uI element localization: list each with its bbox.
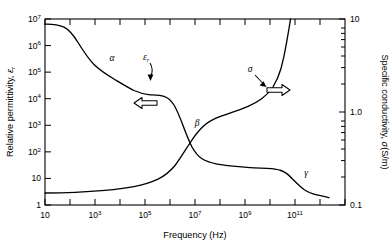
xtick-exp-1: 3: [98, 209, 102, 216]
svg-text:105: 105: [138, 209, 152, 220]
xtick-mantissa-5: 10: [287, 210, 297, 220]
svg-text:107: 107: [28, 13, 42, 24]
svg-text:104: 104: [28, 92, 42, 103]
y2tick-label-1: 1.0: [350, 107, 362, 117]
xtick-mantissa-0: 10: [40, 210, 50, 220]
xtick-exp-5: 11: [297, 209, 304, 216]
ytick-exp-7: 7: [38, 13, 42, 20]
ytick-exp-2: 2: [38, 146, 42, 153]
ytick-mantissa-0: 1: [36, 200, 41, 210]
svg-text:106: 106: [28, 39, 42, 50]
svg-text:107: 107: [188, 209, 202, 220]
svg-text:103: 103: [88, 209, 102, 220]
xtick-mantissa-3: 10: [188, 210, 198, 220]
ytick-mantissa-2: 10: [28, 147, 38, 157]
gamma-dispersion-label: γ: [304, 168, 308, 178]
svg-text:109: 109: [238, 209, 252, 220]
svg-text:1: 1: [36, 200, 41, 210]
chart-svg: 10 103 105 107 109 1011 Frequency (Hz) 1: [0, 0, 391, 245]
xtick-mantissa-2: 10: [138, 210, 148, 220]
svg-text:1011: 1011: [287, 209, 304, 220]
ytick-exp-3: 3: [38, 119, 42, 126]
xtick-exp-3: 7: [198, 209, 202, 216]
svg-text:103: 103: [28, 119, 42, 130]
dielectric-dispersion-chart: 10 103 105 107 109 1011 Frequency (Hz) 1: [0, 0, 391, 245]
sigma-callout-label: σ: [248, 64, 253, 74]
xtick-mantissa-1: 10: [88, 210, 98, 220]
y2tick-label-10: 10: [350, 14, 360, 24]
ytick-mantissa-5: 10: [28, 67, 38, 77]
left-axis-title: Relative permittivity, εr: [5, 67, 16, 157]
xtick-exp-2: 5: [148, 209, 152, 216]
left-axis-tick-labels: 1 10 102 103 104 105 106 107: [28, 13, 42, 210]
ytick-mantissa-1: 10: [31, 173, 41, 183]
beta-dispersion-label: β: [194, 118, 200, 128]
plot-frame: [45, 19, 345, 205]
svg-text:105: 105: [28, 66, 42, 77]
svg-text:10: 10: [31, 173, 41, 183]
ytick-exp-5: 5: [38, 66, 42, 73]
svg-text:10: 10: [40, 210, 50, 220]
ytick-mantissa-4: 10: [28, 94, 38, 104]
right-axis-title: Specific conductivity, σ(S/m): [380, 54, 390, 169]
ytick-mantissa-7: 10: [28, 14, 38, 24]
x-axis-title: Frequency (Hz): [163, 230, 226, 240]
xtick-exp-4: 9: [248, 209, 252, 216]
ytick-mantissa-3: 10: [28, 120, 38, 130]
svg-text:102: 102: [28, 146, 42, 157]
y2tick-label-0.1: 0.1: [350, 200, 362, 210]
right-axis-tick-labels: 10 1.0 0.1: [350, 14, 362, 210]
xtick-mantissa-4: 10: [238, 210, 248, 220]
x-axis-tick-labels: 10 103 105 107 109 1011: [40, 209, 303, 220]
ytick-exp-4: 4: [38, 92, 42, 99]
ytick-exp-6: 6: [38, 39, 42, 46]
ytick-mantissa-6: 10: [28, 41, 38, 51]
